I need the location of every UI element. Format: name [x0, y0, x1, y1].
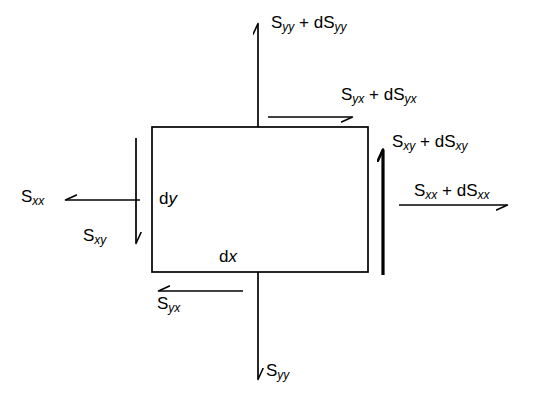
label-right-normal-stress-dprefix: d — [457, 181, 466, 200]
label-bottom-shear-stress-subscript: yx — [168, 301, 180, 315]
label-right-shear-stress-subscript: xy — [403, 139, 415, 153]
diagram-canvas — [0, 0, 550, 409]
label-right-shear-stress-inc-base: S — [444, 132, 455, 151]
label-right-shear-stress-dprefix: d — [435, 132, 444, 151]
label-bottom-normal-stress: Syy — [266, 362, 289, 379]
label-top-normal-stress-subscript: yy — [282, 20, 294, 34]
label-right-normal-stress-base: S — [414, 181, 425, 200]
label-element-width-axis: x — [228, 247, 237, 266]
label-top-normal-stress-plus: + — [294, 13, 313, 32]
label-right-shear-stress-base: S — [392, 132, 403, 151]
label-right-normal-stress-inc-subscript: xx — [478, 188, 490, 202]
label-right-shear-stress-plus: + — [415, 132, 434, 151]
label-top-normal-stress-dprefix: d — [314, 13, 323, 32]
label-top-shear-stress-subscript: yx — [352, 92, 364, 106]
label-bottom-normal-stress-base: S — [266, 361, 277, 380]
label-top-shear-stress-plus: + — [364, 85, 383, 104]
label-bottom-shear-stress-base: S — [157, 294, 168, 313]
label-top-shear-stress: Syx + dSyx — [341, 86, 417, 103]
label-left-shear-stress-base: S — [83, 226, 94, 245]
label-right-shear-stress: Sxy + dSxy — [392, 133, 468, 150]
label-top-normal-stress: Syy + dSyy — [271, 14, 347, 31]
label-left-shear-stress: Sxy — [83, 227, 106, 244]
label-element-height-axis: y — [168, 189, 177, 208]
label-element-width: dx — [219, 248, 237, 265]
label-left-normal-stress-base: S — [21, 187, 32, 206]
stress-element-figure: Syy + dSyy Syx + dSyx Sxy + dSxy Sxx + d… — [0, 0, 550, 409]
label-bottom-normal-stress-subscript: yy — [277, 368, 289, 382]
label-right-normal-stress-inc-base: S — [466, 181, 477, 200]
label-bottom-shear-stress: Syx — [157, 295, 180, 312]
element-rectangle — [152, 127, 368, 272]
label-left-shear-stress-subscript: xy — [94, 233, 106, 247]
label-top-shear-stress-inc-subscript: yx — [405, 92, 417, 106]
label-top-shear-stress-dprefix: d — [384, 85, 393, 104]
label-top-normal-stress-inc-subscript: yy — [335, 20, 347, 34]
label-top-shear-stress-inc-base: S — [393, 85, 404, 104]
label-left-normal-stress: Sxx — [21, 188, 44, 205]
label-top-normal-stress-base: S — [271, 13, 282, 32]
label-top-normal-stress-inc-base: S — [323, 13, 334, 32]
label-element-height: dy — [159, 190, 177, 207]
label-right-normal-stress: Sxx + dSxx — [414, 182, 490, 199]
label-top-shear-stress-base: S — [341, 85, 352, 104]
label-right-shear-stress-inc-subscript: xy — [456, 139, 468, 153]
label-right-normal-stress-subscript: xx — [425, 188, 437, 202]
label-left-normal-stress-subscript: xx — [32, 194, 44, 208]
label-right-normal-stress-plus: + — [437, 181, 456, 200]
